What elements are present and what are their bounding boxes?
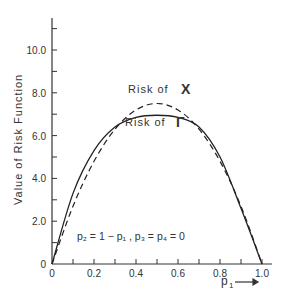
y-tick-label: 8.0 [32,88,46,99]
risk-of-x-label: Risk of [128,83,169,95]
x-ticks: 00.20.40.60.81.0 [49,259,269,279]
y-axis-label: Value of Risk Function [12,74,24,205]
x-tick-label: 0.6 [171,268,185,279]
y-tick-label: 6.0 [32,131,46,142]
risk-of-x-symbol: X [181,81,191,97]
axes [52,18,272,264]
x-tick-label: 0.2 [87,268,101,279]
risk-chart: 02.04.06.08.010.0 00.20.40.60.81.0 Value… [0,0,292,305]
x-axis-label: p [221,274,228,288]
y-tick-label: 4.0 [32,173,46,184]
x-tick-label: 0 [49,268,55,279]
constraint-annotation: p₂ = 1 − p₁ , p₃ = p₄ = 0 [77,230,185,242]
y-tick-label: 0 [40,259,46,270]
x-tick-label: 0.4 [129,268,143,279]
risk-of-gamma-symbol: Γ [176,114,185,130]
x-axis-label-sub: 1 [229,281,234,290]
y-tick-label: 10.0 [27,45,47,56]
x-tick-label: 1.0 [255,268,269,279]
risk-of-gamma-label: Risk of [125,116,166,128]
y-tick-label: 2.0 [32,216,46,227]
x-axis-arrow [235,279,258,285]
